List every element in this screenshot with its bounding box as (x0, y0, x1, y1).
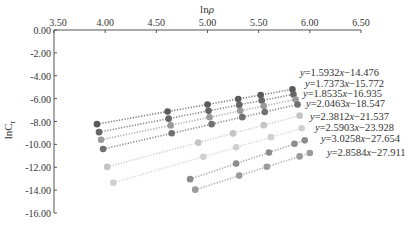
y-tick-label: -16.00 (25, 208, 51, 219)
series-7 (187, 137, 308, 182)
equation-label: y=2.3812x−21.537 (309, 111, 389, 122)
equation-label: y=2.0463x−18.547 (305, 98, 385, 109)
data-point (260, 122, 267, 129)
y-tick-label: -8.00 (30, 117, 51, 128)
y-tick-label: -14.00 (25, 185, 51, 196)
data-point (294, 101, 301, 108)
data-point (187, 176, 194, 183)
y-tick-label: 0.00 (34, 25, 52, 36)
y-tick-label: -12.00 (25, 162, 51, 173)
data-point (233, 144, 240, 151)
data-point (200, 153, 207, 160)
y-tick-label: -4.00 (30, 71, 51, 82)
data-point (235, 96, 242, 103)
equation-label: y=3.0258x−27.654 (320, 133, 401, 144)
data-point (268, 134, 275, 141)
data-point (236, 172, 243, 179)
data-point (296, 112, 303, 119)
data-point (165, 115, 172, 122)
fit-line (195, 153, 310, 190)
data-point (167, 122, 174, 129)
data-point (205, 108, 212, 115)
data-point (192, 186, 199, 193)
x-axis-label: lnρ (200, 3, 214, 15)
data-point (104, 164, 111, 171)
equation-label: y=1.5932x−14.476 (299, 67, 379, 78)
data-point (110, 180, 117, 187)
x-tick-label: 3.50 (49, 17, 67, 28)
x-tick-label: 6.00 (301, 17, 319, 28)
x-tick-label: 6.50 (352, 17, 370, 28)
data-point (291, 141, 298, 148)
fit-line (190, 140, 305, 179)
data-point (257, 92, 264, 99)
data-point (260, 103, 267, 110)
data-point (164, 108, 171, 115)
series-8 (192, 150, 313, 193)
equation-labels: y=1.5932x−14.476y=1.7373x−15.772y=1.8535… (299, 67, 406, 158)
equation-label: y=2.5903x−23.928 (314, 122, 394, 133)
x-tick-label: 4.00 (96, 17, 114, 28)
data-point (100, 146, 107, 153)
data-point (206, 114, 213, 121)
x-tick-label: 5.00 (199, 17, 217, 28)
x-tick-label: 4.50 (148, 17, 166, 28)
equation-label: y=2.8584x−27.911 (326, 147, 406, 158)
data-point (307, 150, 314, 157)
data-point (296, 153, 303, 160)
data-point (237, 108, 244, 115)
chart: 3.504.004.505.005.506.006.500.00-2.00-4.… (0, 0, 416, 225)
data-point (94, 121, 101, 128)
data-point (266, 149, 273, 156)
data-point (264, 163, 271, 170)
data-series (94, 86, 313, 193)
data-point (236, 102, 243, 109)
data-point (204, 101, 211, 108)
data-point (208, 121, 215, 128)
data-point (233, 160, 240, 167)
data-point (230, 130, 237, 137)
data-point (239, 114, 246, 121)
data-point (262, 109, 269, 116)
data-point (98, 137, 105, 144)
y-tick-label: -2.00 (30, 48, 51, 59)
y-tick-label: -6.00 (30, 94, 51, 105)
data-point (195, 139, 202, 146)
y-axis-label: lnCr (2, 120, 17, 139)
data-point (168, 130, 175, 137)
y-tick-label: -10.00 (25, 139, 51, 150)
x-tick-label: 5.50 (250, 17, 268, 28)
data-point (301, 137, 308, 144)
data-point (298, 125, 305, 132)
series-6 (110, 125, 305, 186)
data-point (96, 129, 103, 136)
